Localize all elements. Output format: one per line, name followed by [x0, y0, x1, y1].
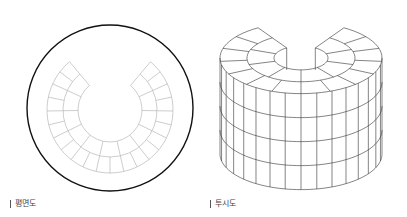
top-divider — [355, 60, 382, 61]
top-divider — [269, 67, 285, 76]
ring-divider — [80, 74, 90, 85]
plan-view-caption: 평면도 — [10, 200, 37, 208]
ring-divider — [100, 141, 103, 156]
plan-view-caption-text: 평면도 — [15, 200, 37, 208]
top-divider — [320, 80, 330, 91]
top-divider — [349, 69, 373, 74]
ring-divider — [70, 62, 80, 74]
top-divider — [220, 60, 247, 61]
perspective-view-caption-text: 투시도 — [215, 200, 237, 208]
top-divider — [229, 69, 253, 74]
ring-divider — [96, 156, 100, 172]
ring-divider — [139, 90, 153, 96]
top-divider — [247, 76, 265, 85]
ring-divider — [156, 97, 172, 100]
top-divider — [249, 61, 275, 64]
ring-divider — [48, 97, 64, 100]
ring-divider — [152, 131, 166, 138]
diagram-canvas — [0, 0, 407, 217]
ring-divider — [147, 72, 160, 82]
ring-divider — [54, 131, 68, 138]
top-divider — [223, 48, 249, 51]
ring-divider — [68, 124, 81, 131]
top-divider — [272, 38, 286, 48]
ring-divider — [146, 140, 158, 150]
caption-bar-icon — [210, 200, 211, 208]
ring-divider — [153, 84, 168, 91]
ring-arc — [63, 74, 157, 157]
top-divider — [330, 28, 344, 38]
ring-divider — [61, 140, 73, 150]
ring-divider — [139, 147, 149, 160]
top-inner-arc — [274, 48, 328, 70]
top-divider — [251, 49, 276, 53]
top-divider — [337, 76, 355, 85]
ring-divider — [67, 90, 81, 96]
ring-divider — [53, 84, 68, 91]
plan-view-drawing — [27, 25, 193, 191]
ring-divider — [156, 121, 172, 125]
top-divider — [236, 37, 258, 44]
top-divider — [317, 67, 333, 76]
ring-divider — [130, 135, 139, 147]
ring-divider — [117, 141, 120, 156]
ring-divider — [139, 124, 152, 131]
ring-divider — [131, 74, 141, 85]
top-divider — [258, 28, 272, 38]
ring-divider — [140, 62, 150, 74]
ring-divider — [130, 152, 137, 166]
top-divider — [326, 49, 351, 53]
perspective-view-caption: 투시도 — [210, 200, 237, 208]
top-divider — [327, 61, 353, 64]
top-divider — [272, 80, 282, 91]
top-divider — [315, 38, 329, 48]
ring-divider — [60, 72, 73, 82]
ring-divider — [71, 147, 81, 160]
ring-divider — [120, 156, 124, 172]
top-divider — [353, 48, 379, 51]
top-divider — [344, 37, 366, 44]
ring-arc — [78, 85, 142, 142]
ring-divider — [49, 121, 65, 125]
ring-divider — [81, 135, 90, 147]
caption-bar-icon — [10, 200, 11, 208]
ring-arc — [47, 62, 173, 173]
perspective-view-drawing — [220, 28, 382, 190]
ring-divider — [83, 152, 90, 166]
